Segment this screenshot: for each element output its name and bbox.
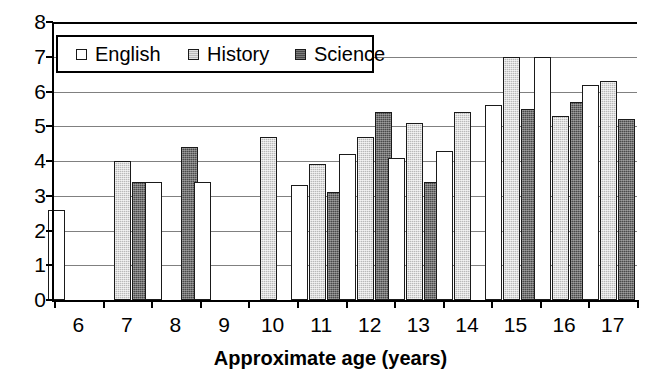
bar-english-age-15: [485, 105, 502, 300]
x-axis-title: Approximate age (years): [0, 347, 661, 370]
bar-english-age-16: [534, 57, 551, 300]
legend-entry-history: History: [188, 44, 269, 64]
x-tick-label: 8: [150, 314, 200, 335]
y-tick-mark: [46, 264, 53, 266]
bar-english-age-8: [145, 182, 162, 300]
x-tick-mark: [637, 300, 639, 308]
bar-english-age-11: [291, 185, 308, 300]
x-tick-mark: [394, 300, 396, 308]
y-tick-mark: [46, 125, 53, 127]
y-tick-label: 0: [14, 289, 46, 310]
y-tick-mark: [46, 160, 53, 162]
x-tick-label: 17: [588, 314, 638, 335]
legend-label-english: English: [95, 44, 161, 64]
x-tick-mark: [151, 300, 153, 308]
y-tick-label: 5: [14, 115, 46, 136]
x-tick-mark: [200, 300, 202, 308]
bar-history-age-11: [309, 164, 326, 300]
x-tick-mark: [540, 300, 542, 308]
x-tick-label: 16: [539, 314, 589, 335]
y-tick-mark: [46, 195, 53, 197]
bar-history-age-10: [260, 137, 277, 300]
bar-history-age-14: [454, 112, 471, 300]
x-tick-label: 14: [442, 314, 492, 335]
y-tick-mark: [46, 299, 53, 301]
bar-history-age-7: [114, 161, 131, 300]
y-tick-mark: [46, 21, 53, 23]
x-tick-mark: [346, 300, 348, 308]
x-tick-label: 7: [102, 314, 152, 335]
bar-english-age-12: [339, 154, 356, 300]
x-tick-label: 15: [491, 314, 541, 335]
bar-history-age-15: [503, 57, 520, 300]
bar-science-age-17: [618, 119, 635, 300]
y-axis-line: [52, 22, 54, 302]
bar-english-age-6: [48, 210, 65, 300]
bar-chart: 012345678 67891011121314151617 Approxima…: [0, 0, 661, 386]
bar-english-age-9: [194, 182, 211, 300]
x-tick-label: 11: [296, 314, 346, 335]
x-tick-mark: [588, 300, 590, 308]
bar-english-age-17: [582, 85, 599, 300]
bar-history-age-13: [406, 123, 423, 300]
y-tick-label: 8: [14, 11, 46, 32]
legend-label-history: History: [207, 44, 269, 64]
legend-label-science: Science: [314, 44, 385, 64]
y-tick-mark: [46, 56, 53, 58]
y-tick-label: 2: [14, 220, 46, 241]
legend-entry-science: Science: [295, 44, 385, 64]
y-axis-labels: 012345678: [14, 0, 46, 386]
x-tick-label: 6: [53, 314, 103, 335]
bar-history-age-17: [600, 81, 617, 300]
legend: English History Science: [56, 35, 374, 73]
x-tick-mark: [297, 300, 299, 308]
x-tick-mark: [443, 300, 445, 308]
x-tick-mark: [491, 300, 493, 308]
y-tick-label: 7: [14, 46, 46, 67]
x-tick-mark: [248, 300, 250, 308]
y-tick-label: 3: [14, 185, 46, 206]
x-tick-label: 12: [345, 314, 395, 335]
x-tick-mark: [103, 300, 105, 308]
y-tick-label: 6: [14, 81, 46, 102]
x-tick-label: 9: [199, 314, 249, 335]
bar-english-age-14: [436, 151, 453, 300]
y-tick-mark: [46, 91, 53, 93]
bar-history-age-16: [552, 116, 569, 300]
bar-english-age-13: [388, 158, 405, 300]
y-tick-label: 1: [14, 254, 46, 275]
history-swatch-icon: [188, 49, 199, 60]
gridline: [54, 22, 637, 24]
x-tick-label: 13: [393, 314, 443, 335]
x-tick-label: 10: [248, 314, 298, 335]
science-swatch-icon: [295, 49, 306, 60]
x-tick-mark: [54, 300, 56, 308]
bar-history-age-12: [357, 137, 374, 300]
y-tick-label: 4: [14, 150, 46, 171]
y-tick-mark: [46, 230, 53, 232]
english-swatch-icon: [76, 49, 87, 60]
legend-entry-english: English: [76, 44, 161, 64]
